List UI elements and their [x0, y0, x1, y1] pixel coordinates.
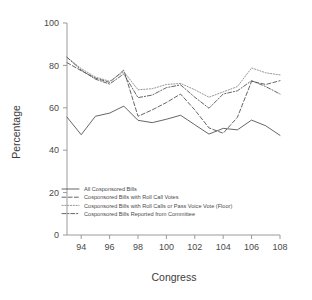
series-line-3 [67, 57, 280, 108]
x-tick-label: 104 [216, 242, 231, 252]
x-tick-label: 106 [244, 242, 259, 252]
legend-label-2: Cosponsored Bills with Roll Calls or Pas… [84, 203, 232, 209]
y-tick-label: 60 [49, 103, 59, 113]
legend-label-0: All Cosponsored Bills [84, 186, 137, 192]
x-tick-label: 94 [76, 242, 86, 252]
x-axis: 949698100102104106108 [67, 235, 288, 252]
y-tick-label: 80 [49, 61, 59, 71]
y-tick-label: 100 [44, 18, 59, 28]
series-line-0 [67, 106, 280, 135]
line-chart: 020406080100 949698100102104106108 All C… [0, 0, 312, 300]
series-lines [67, 57, 280, 135]
y-tick-label: 0 [54, 230, 59, 240]
x-tick-label: 100 [159, 242, 174, 252]
series-line-2 [67, 57, 280, 97]
chart-figure: 020406080100 949698100102104106108 All C… [0, 0, 312, 300]
x-tick-label: 102 [187, 242, 202, 252]
y-tick-label: 20 [49, 188, 59, 198]
legend-label-3: Cosponsored Bills Reported from Committe… [84, 211, 195, 217]
legend-label-1: Cosponsored Bills with Roll Call Votes [84, 194, 179, 200]
chart-legend: All Cosponsored BillsCosponsored Bills w… [62, 186, 232, 217]
y-axis: 020406080100 [44, 18, 67, 240]
y-tick-label: 40 [49, 145, 59, 155]
x-tick-label: 96 [105, 242, 115, 252]
y-axis-title: Percentage [10, 105, 22, 159]
x-tick-label: 98 [133, 242, 143, 252]
x-tick-label: 108 [272, 242, 287, 252]
x-axis-title: Congress [152, 271, 197, 283]
